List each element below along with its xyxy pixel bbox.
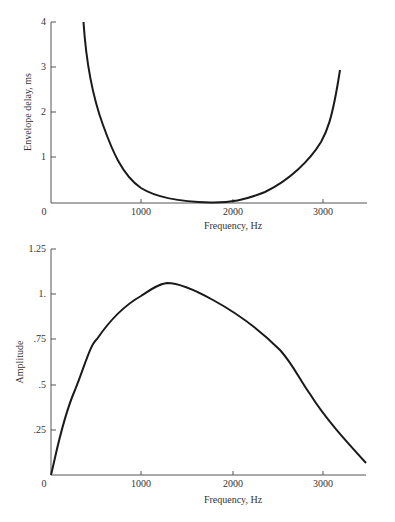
top-x-tick-label: 2000 [223,206,243,217]
top-y-tick-label: 2 [41,106,46,117]
envelope-delay-curve [84,22,341,203]
amplitude-chart: 1.25 1. .75 .5 .25 0 1000 2000 3000 Freq… [14,243,366,505]
top-y-tick-label: 3 [41,61,46,72]
top-x-tick-label: 1000 [131,206,151,217]
amplitude-curve [51,283,366,475]
top-y-axis-title: Envelope delay, ms [22,73,33,151]
bottom-y-tick-label: 1. [39,288,47,299]
bottom-x-tick-label: 2000 [223,478,243,489]
envelope-delay-chart: 4 3 2 1 0 1000 2000 3000 Frequency, Hz E… [22,16,367,231]
top-y-tick-label: 1 [41,151,46,162]
bottom-y-tick-label: 1.25 [29,243,47,254]
bottom-x-axis-title: Frequency, Hz [204,494,263,505]
top-y-tick-label: 4 [41,16,46,27]
top-x-axis-title: Frequency, Hz [204,220,263,231]
top-x-tick-label: 0 [42,206,47,217]
top-x-tick-label: 3000 [313,206,333,217]
bottom-x-tick-label: 1000 [131,478,151,489]
bottom-y-axis-title: Amplitude [14,340,25,383]
bottom-x-tick-label: 3000 [313,478,333,489]
bottom-y-tick-label: .5 [39,379,47,390]
bottom-y-tick-label: .75 [34,333,47,344]
bottom-y-tick-label: .25 [34,424,47,435]
figure: 4 3 2 1 0 1000 2000 3000 Frequency, Hz E… [0,0,395,522]
bottom-x-tick-label: 0 [42,478,47,489]
